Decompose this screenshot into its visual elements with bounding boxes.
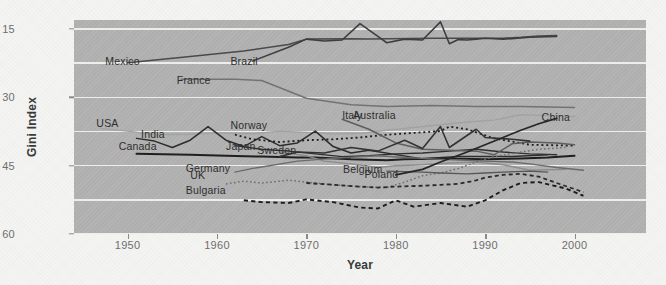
y-tick-label: 60 bbox=[2, 228, 15, 240]
series-label-australia: Australia bbox=[353, 110, 396, 121]
x-tick-label: 1970 bbox=[294, 239, 320, 251]
x-tick-mark bbox=[128, 234, 129, 239]
x-tick-label: 1960 bbox=[204, 239, 230, 251]
x-tick-label: 1980 bbox=[383, 239, 409, 251]
series-label-brazil: Brazil bbox=[230, 56, 257, 67]
x-tick-mark bbox=[396, 234, 397, 239]
y-tick-label: 45 bbox=[2, 160, 15, 172]
series-label-sweden: Sweden bbox=[257, 145, 296, 156]
plot-area bbox=[74, 20, 646, 234]
x-tick-label: 1950 bbox=[115, 239, 141, 251]
y-tick-label: 30 bbox=[2, 91, 15, 103]
x-tick-label: 2000 bbox=[562, 239, 588, 251]
series-label-india: India bbox=[141, 129, 165, 140]
x-tick-mark bbox=[306, 234, 307, 239]
series-label-belgium: Belgium bbox=[343, 164, 382, 175]
x-tick-mark bbox=[217, 234, 218, 239]
series-label-mexico: Mexico bbox=[105, 56, 139, 67]
gini-index-line-chart: Gini Index Year 60453015 195019601970198… bbox=[0, 0, 666, 285]
series-line-italy bbox=[342, 119, 574, 155]
x-axis-label: Year bbox=[347, 258, 373, 272]
series-lines bbox=[74, 20, 646, 234]
series-label-usa: USA bbox=[96, 118, 118, 129]
x-tick-mark bbox=[575, 234, 576, 239]
y-tick-label: 15 bbox=[2, 23, 15, 35]
series-line-usa bbox=[101, 115, 575, 135]
series-label-japan: Japan bbox=[226, 141, 256, 152]
y-axis-label: Gini Index bbox=[25, 97, 39, 157]
series-label-france: France bbox=[177, 75, 211, 86]
series-line-france bbox=[181, 79, 574, 107]
series-label-norway: Norway bbox=[230, 120, 267, 131]
x-tick-mark bbox=[485, 234, 486, 239]
series-label-bulgaria: Bulgaria bbox=[186, 185, 226, 196]
figure-inner: Gini Index Year 60453015 195019601970198… bbox=[6, 6, 660, 272]
series-label-china: China bbox=[542, 112, 570, 123]
series-label-uk: UK bbox=[190, 170, 205, 181]
x-tick-label: 1990 bbox=[472, 239, 498, 251]
series-label-canada: Canada bbox=[119, 141, 157, 152]
